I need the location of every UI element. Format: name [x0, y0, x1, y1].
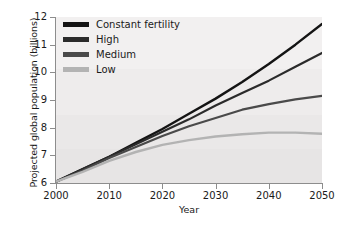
- legend-item: Medium: [63, 48, 180, 61]
- legend-item: Constant fertility: [63, 18, 180, 31]
- legend-label: Low: [96, 65, 116, 75]
- y-tick-mark: [50, 72, 55, 73]
- x-tick-mark: [56, 184, 57, 189]
- x-tick-label: 2020: [142, 190, 182, 201]
- x-tick-label: 2000: [36, 190, 76, 201]
- x-tick-mark: [216, 184, 217, 189]
- y-tick-mark: [50, 17, 55, 18]
- legend-label: Medium: [96, 50, 136, 60]
- y-tick-label: 8: [20, 122, 47, 133]
- x-tick-mark: [322, 184, 323, 189]
- y-tick-mark: [50, 128, 55, 129]
- y-tick-label: 9: [20, 94, 47, 105]
- x-axis-spine: [55, 183, 323, 184]
- y-tick-label: 10: [20, 66, 47, 77]
- x-tick-label: 2050: [302, 190, 342, 201]
- y-tick-label: 11: [20, 39, 47, 50]
- legend-color-swatch: [63, 22, 89, 27]
- x-tick-label: 2030: [196, 190, 236, 201]
- legend-color-swatch: [63, 52, 89, 57]
- y-tick-mark: [50, 100, 55, 101]
- x-tick-mark: [269, 184, 270, 189]
- x-axis-title: Year: [56, 204, 322, 215]
- y-axis-spine: [55, 17, 56, 184]
- series-line: [56, 96, 322, 182]
- y-tick-label: 6: [20, 177, 47, 188]
- legend-label: High: [96, 35, 119, 45]
- y-tick-mark: [50, 183, 55, 184]
- y-tick-label: 12: [20, 11, 47, 22]
- chart-figure: Projected global population (billions) Y…: [0, 0, 344, 227]
- x-tick-label: 2040: [249, 190, 289, 201]
- legend-label: Constant fertility: [96, 20, 180, 30]
- chart-legend: Constant fertilityHighMediumLow: [63, 18, 180, 76]
- y-tick-mark: [50, 155, 55, 156]
- legend-item: High: [63, 33, 180, 46]
- y-tick-label: 7: [20, 149, 47, 160]
- legend-color-swatch: [63, 67, 89, 72]
- x-tick-label: 2010: [89, 190, 129, 201]
- legend-color-swatch: [63, 37, 89, 42]
- x-tick-mark: [109, 184, 110, 189]
- x-tick-mark: [162, 184, 163, 189]
- legend-item: Low: [63, 63, 180, 76]
- series-line: [56, 133, 322, 182]
- y-tick-mark: [50, 45, 55, 46]
